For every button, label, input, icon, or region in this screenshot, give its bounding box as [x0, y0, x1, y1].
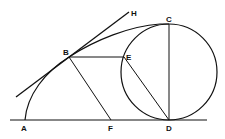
- cycloid-diagram: A B C D E F H: [0, 0, 225, 139]
- cycloid-arc: [25, 24, 169, 120]
- label-h: H: [131, 9, 137, 18]
- label-c: C: [166, 15, 172, 24]
- segment-ed: [124, 57, 169, 120]
- label-e: E: [126, 53, 132, 62]
- segment-bf: [69, 57, 111, 120]
- label-d: D: [166, 124, 172, 133]
- label-a: A: [21, 124, 27, 133]
- label-b: B: [63, 48, 69, 57]
- label-f: F: [108, 124, 113, 133]
